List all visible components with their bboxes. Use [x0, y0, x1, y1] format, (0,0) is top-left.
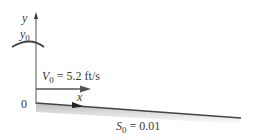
depth-subscript: 0 [25, 33, 30, 43]
y-axis-arrowhead-icon [34, 12, 38, 19]
slope-value: = 0.01 [130, 119, 161, 133]
velocity-value: = 5.2 ft/s [57, 69, 100, 83]
depth-label: y0 [20, 28, 30, 43]
slope-subscript: 0 [122, 125, 127, 135]
velocity-label: V0 = 5.2 ft/s [42, 70, 100, 85]
origin-label: 0 [21, 98, 27, 110]
velocity-subscript: 0 [49, 75, 54, 85]
slope-label: S0 = 0.01 [116, 120, 160, 135]
x-axis-label: x [77, 91, 82, 103]
y-axis-label: y [22, 12, 27, 24]
